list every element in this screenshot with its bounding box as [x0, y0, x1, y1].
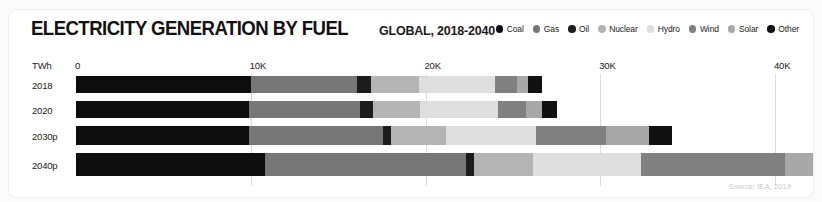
bar-segment-oil[interactable]	[466, 153, 474, 176]
bar-track-2020	[76, 101, 557, 118]
bar-segment-other[interactable]	[528, 76, 542, 93]
bar-segment-hydro[interactable]	[420, 101, 498, 118]
bar-segment-gas[interactable]	[249, 101, 360, 118]
bar-segment-solar[interactable]	[526, 101, 542, 118]
bar-segment-oil[interactable]	[383, 126, 391, 145]
legend-swatch-other-icon	[767, 25, 775, 33]
chart-legend: CoalGasOilNuclearHydroWindSolarOther	[496, 24, 799, 34]
bar-segment-nuclear[interactable]	[391, 126, 447, 145]
bar-segment-coal[interactable]	[76, 76, 251, 93]
bar-track-2018	[76, 76, 542, 93]
bar-row-2030p: 2030p	[9, 126, 814, 145]
bar-segment-hydro[interactable]	[419, 76, 494, 93]
legend-item-coal[interactable]: Coal	[496, 24, 524, 34]
row-label-2040p: 2040p	[32, 159, 57, 170]
row-label-2020: 2020	[32, 104, 52, 115]
bar-segment-gas[interactable]	[251, 76, 358, 93]
legend-label: Oil	[579, 24, 589, 34]
legend-swatch-nuclear-icon	[598, 25, 606, 33]
bar-segment-other[interactable]	[542, 101, 558, 118]
bar-segment-coal[interactable]	[76, 126, 249, 145]
bar-segment-gas[interactable]	[265, 153, 466, 176]
legend-swatch-coal-icon	[496, 25, 504, 33]
legend-item-hydro[interactable]: Hydro	[647, 24, 680, 34]
chart-header: ELECTRICITY GENERATION BY FUEL GLOBAL, 2…	[9, 10, 814, 52]
x-tick-label-40K: 40K	[774, 60, 790, 71]
x-axis: TWh 010K20K30K40K	[9, 60, 814, 74]
bar-row-2018: 2018	[9, 76, 814, 93]
source-note: Source: IEA, 2019	[728, 182, 791, 191]
bar-segment-solar[interactable]	[517, 76, 527, 93]
bar-segment-oil[interactable]	[357, 76, 371, 93]
x-tick-label-10K: 10K	[250, 60, 266, 71]
page-top-sliver	[0, 0, 822, 9]
legend-swatch-gas-icon	[533, 25, 541, 33]
legend-label: Coal	[507, 24, 524, 34]
bar-segment-coal[interactable]	[76, 153, 265, 176]
x-tick-label-30K: 30K	[599, 60, 615, 71]
bar-track-2030p	[76, 126, 672, 145]
chart-subtitle: GLOBAL, 2018-2040	[379, 24, 495, 38]
legend-item-nuclear[interactable]: Nuclear	[598, 24, 638, 34]
x-tick-label-20K: 20K	[425, 60, 441, 71]
bar-rows: 201820202030p2040p	[9, 74, 814, 186]
bar-segment-wind[interactable]	[641, 153, 784, 176]
legend-swatch-wind-icon	[689, 25, 697, 33]
legend-swatch-solar-icon	[728, 25, 736, 33]
bar-segment-other[interactable]	[649, 126, 672, 145]
chart-card: ELECTRICITY GENERATION BY FUEL GLOBAL, 2…	[8, 9, 814, 198]
bar-track-2040p	[76, 153, 814, 176]
row-label-2030p: 2030p	[32, 130, 57, 141]
chart-screenshot: ELECTRICITY GENERATION BY FUEL GLOBAL, 2…	[0, 0, 822, 202]
bar-row-2040p: 2040p	[9, 153, 814, 176]
row-label-2018: 2018	[32, 79, 52, 90]
legend-item-other[interactable]: Other	[767, 24, 799, 34]
legend-swatch-oil-icon	[568, 25, 576, 33]
bar-segment-nuclear[interactable]	[373, 101, 420, 118]
x-tick-label-0: 0	[75, 60, 80, 71]
legend-item-solar[interactable]: Solar	[728, 24, 758, 34]
bar-row-2020: 2020	[9, 101, 814, 118]
bar-segment-oil[interactable]	[360, 101, 373, 118]
legend-label: Solar	[739, 24, 758, 34]
bar-segment-hydro[interactable]	[533, 153, 641, 176]
bar-segment-nuclear[interactable]	[371, 76, 419, 93]
bar-segment-wind[interactable]	[495, 76, 518, 93]
legend-label: Gas	[544, 24, 559, 34]
legend-label: Other	[778, 24, 799, 34]
bar-segment-hydro[interactable]	[446, 126, 536, 145]
legend-label: Nuclear	[609, 24, 638, 34]
bar-segment-wind[interactable]	[498, 101, 526, 118]
bar-segment-coal[interactable]	[76, 101, 249, 118]
legend-item-gas[interactable]: Gas	[533, 24, 559, 34]
bar-segment-nuclear[interactable]	[474, 153, 533, 176]
chart-title: ELECTRICITY GENERATION BY FUEL	[31, 18, 348, 38]
bar-segment-solar[interactable]	[606, 126, 649, 145]
legend-swatch-hydro-icon	[647, 25, 655, 33]
legend-item-oil[interactable]: Oil	[568, 24, 589, 34]
bar-segment-solar[interactable]	[785, 153, 814, 176]
axis-unit-label: TWh	[32, 60, 52, 71]
title-block: ELECTRICITY GENERATION BY FUEL GLOBAL, 2…	[31, 18, 495, 38]
legend-item-wind[interactable]: Wind	[689, 24, 719, 34]
bar-segment-gas[interactable]	[249, 126, 383, 145]
legend-label: Hydro	[658, 24, 680, 34]
bar-segment-wind[interactable]	[536, 126, 606, 145]
legend-label: Wind	[700, 24, 719, 34]
chart-plot-area: TWh 010K20K30K40K 201820202030p2040p	[9, 52, 814, 198]
